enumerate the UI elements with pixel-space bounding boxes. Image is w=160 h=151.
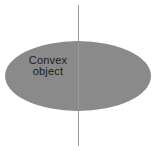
convex-object-label-line-2: object — [11, 66, 85, 77]
convex-object-label: Convex object — [11, 55, 85, 77]
convex-object-figure: Convex object — [0, 0, 160, 151]
